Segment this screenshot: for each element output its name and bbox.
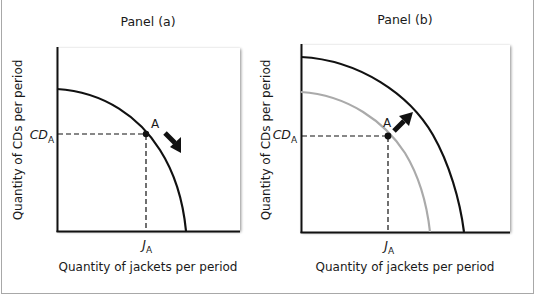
panel-a-point-label: A	[151, 117, 160, 131]
panel-a-y-label: Quantity of CDs per period	[11, 60, 25, 221]
panel-b-j-tick-sub: A	[388, 246, 395, 256]
panel-a-plot-area	[57, 48, 240, 231]
panel-b-point-label: A	[383, 116, 392, 130]
panel-b-cd-tick-sub: A	[291, 135, 298, 145]
panel-a-cd-tick-sub: A	[48, 135, 55, 145]
panel-b-plot-area	[301, 45, 510, 232]
panel-a-x-label: Quantity of jackets per period	[59, 260, 238, 274]
panel-b-title: Panel (b)	[377, 12, 432, 27]
panel-a-cd-tick: CD	[30, 127, 49, 142]
panel-a-point-a	[143, 131, 149, 137]
panel-a-title: Panel (a)	[120, 14, 175, 29]
panel-b-point-a	[385, 133, 392, 140]
figure-svg: Panel (a) A CD A J A Quantity of jackets…	[0, 0, 541, 304]
panel-b-y-label: Quantity of CDs per period	[259, 60, 273, 221]
panel-b: Panel (b) A CD A J A Quantity of jackets…	[259, 12, 510, 274]
panel-b-cd-tick: CD	[273, 127, 292, 142]
panel-a-j-tick-sub: A	[146, 245, 153, 255]
panel-a: Panel (a) A CD A J A Quantity of jackets…	[11, 14, 240, 274]
panel-b-x-label: Quantity of jackets per period	[316, 260, 495, 274]
